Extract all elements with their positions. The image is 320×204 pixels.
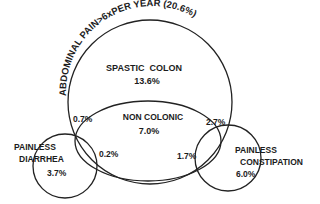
venn-diagram: ABDOMINAL PAIN>6xPER YEAR (20.6%) SPASTI… <box>0 0 320 204</box>
painless-diarrhea-value: 3.7% <box>47 168 67 178</box>
outer-circle-label: ABDOMINAL PAIN>6xPER YEAR (20.6%) <box>57 0 199 96</box>
painless-constipation-value: 6.0% <box>236 169 256 179</box>
painless-constipation-label-line1: PAINLESS <box>235 145 277 155</box>
non-colonic-label: NON COLONIC <box>123 112 183 122</box>
painless-diarrhea-label-line2: DIARRHEA <box>19 154 64 164</box>
painless-diarrhea-label-line1: PAINLESS <box>14 142 56 152</box>
overlap-noncolonic-constipation-value: 1.7% <box>177 151 197 161</box>
overlap-pain-diarrhea-value: 0.7% <box>73 114 93 124</box>
overlap-noncolonic-diarrhea-value: 0.2% <box>99 149 119 159</box>
abdominal-pain-circle <box>68 20 232 184</box>
overlap-pain-constipation-value: 2.7% <box>206 117 226 127</box>
painless-constipation-label-line2: CONSTIPATION <box>240 157 303 167</box>
non-colonic-value: 7.0% <box>139 126 160 136</box>
spastic-colon-value: 13.6% <box>134 76 160 86</box>
spastic-colon-label: SPASTIC COLON <box>106 63 182 73</box>
